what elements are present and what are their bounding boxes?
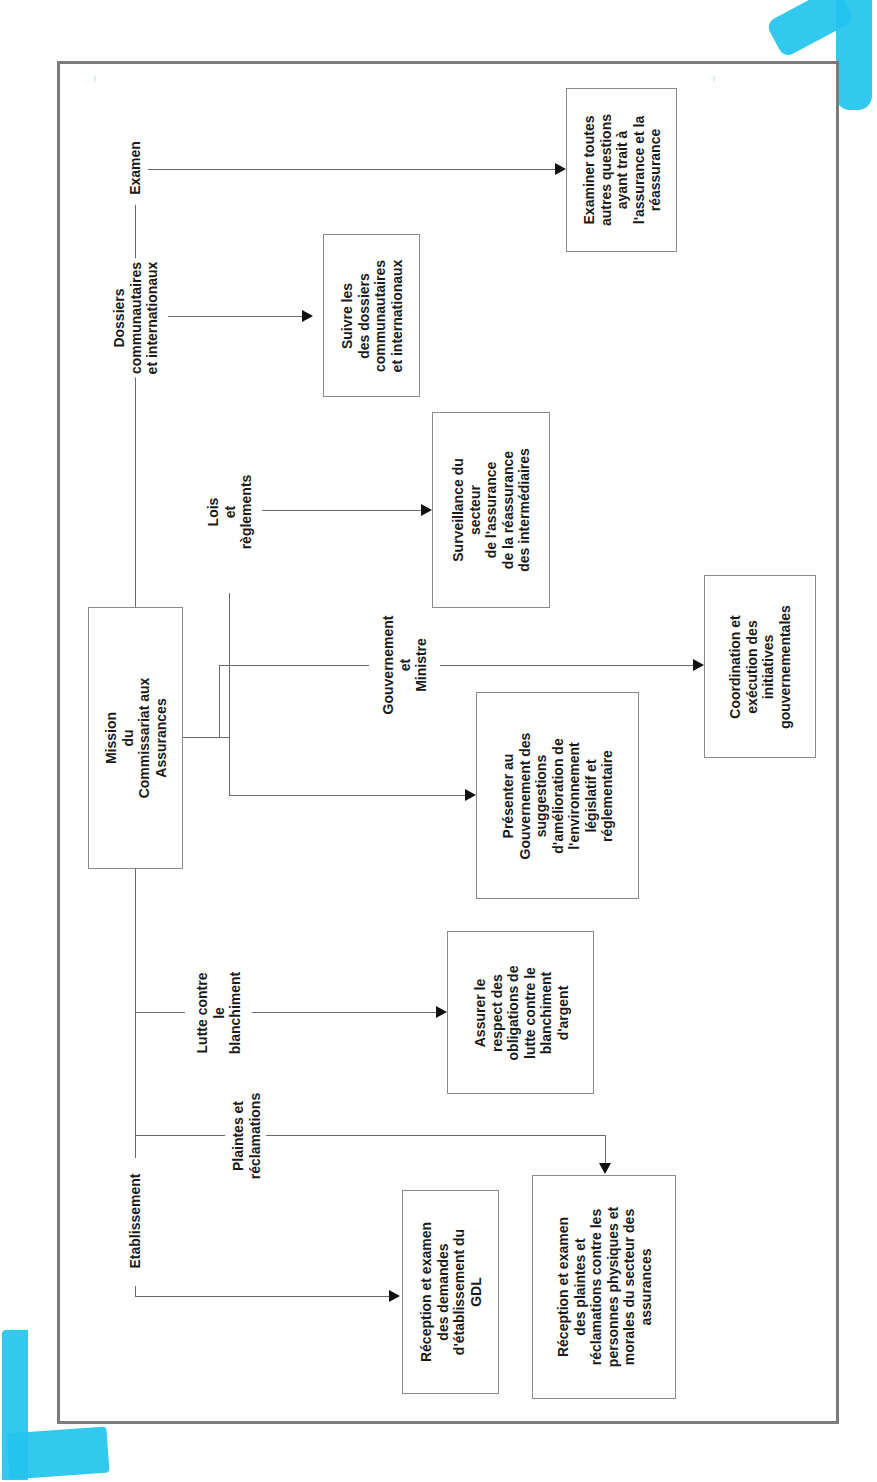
arrow-right-icon <box>421 504 432 516</box>
lois-target-box: Surveillance du secteur de l'assurance d… <box>432 412 550 608</box>
examen-target-box: Examiner toutes autres questions ayant t… <box>566 88 677 252</box>
branch-label-dossiers: Dossiers communautaires et internationau… <box>104 258 168 378</box>
gouvernement-connector-a <box>219 665 369 666</box>
dossiers-target-box: Suivre les des dossiers communautaires e… <box>323 234 420 397</box>
arrow-right-icon <box>302 310 313 322</box>
etablissement-target-box: Réception et examen des demandes d'établ… <box>402 1190 499 1394</box>
branch-label-etablissement: Etablissement <box>122 1156 148 1286</box>
lutte-connector-a <box>135 1012 185 1013</box>
lutte-connector-b <box>252 1012 438 1013</box>
gouvernement-connector-b <box>440 665 696 666</box>
scan-speck <box>94 76 96 82</box>
plaintes-connector-a <box>135 1135 225 1136</box>
lois-connector <box>262 510 424 511</box>
presenter-connector <box>229 795 467 796</box>
arrow-down-icon <box>599 1163 611 1174</box>
presenter-target-box: Présenter au Gouvernement des suggestion… <box>476 692 639 899</box>
tape-mark-bottom-left-flap <box>7 1427 110 1480</box>
dossiers-connector <box>168 316 304 317</box>
examen-connector <box>148 169 556 170</box>
gouvernement-riser <box>219 665 220 737</box>
branch-label-gouvernement: Gouvernement et Ministre <box>372 603 438 727</box>
scan-speck <box>713 76 715 82</box>
lois-riser <box>229 593 230 795</box>
mission-center-box: Mission du Commissariat aux Assurances <box>88 607 183 869</box>
branch-label-lutte: Lutte contre le blanchiment <box>186 963 252 1063</box>
arrow-right-icon <box>555 163 566 175</box>
plaintes-connector-b <box>266 1135 605 1136</box>
plaintes-drop <box>605 1135 606 1165</box>
plaintes-target-box: Réception et examen des plaintes et récl… <box>532 1175 676 1399</box>
arrow-right-icon <box>436 1006 447 1018</box>
branch-label-lois: Lois et règlements <box>198 472 262 552</box>
branch-label-examen: Examen <box>122 130 148 206</box>
arrow-right-icon <box>465 789 476 801</box>
etablissement-connector <box>135 1296 390 1297</box>
lutte-target-box: Assurer le respect des obligations de lu… <box>447 931 594 1094</box>
gouvernement-target-box: Coordination et exécution des initiative… <box>704 575 816 758</box>
arrow-right-icon <box>693 659 704 671</box>
branch-label-plaintes: Plaintes et réclamations <box>226 1080 266 1192</box>
mission-out-connector <box>182 737 229 738</box>
arrow-right-icon <box>389 1290 400 1302</box>
spine-line-lower <box>135 868 136 1158</box>
